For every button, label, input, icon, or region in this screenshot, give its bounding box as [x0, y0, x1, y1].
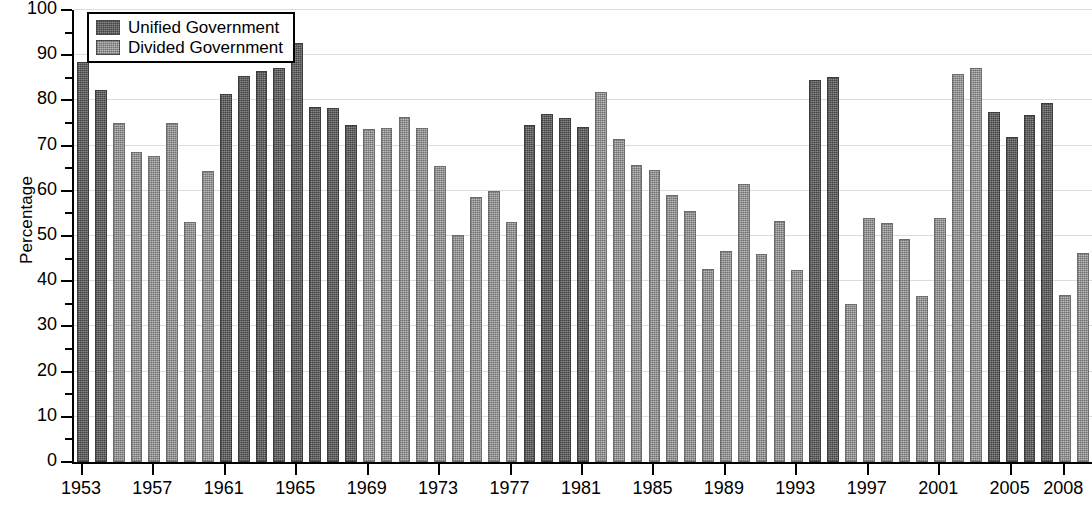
bar [845, 304, 857, 462]
x-tick-mark [152, 464, 154, 475]
y-tick-mark [61, 54, 72, 56]
bar [327, 108, 339, 462]
bar [631, 165, 643, 462]
bar [131, 152, 143, 462]
bar [488, 191, 500, 462]
y-tick-mark [61, 235, 72, 237]
y-tick-label: 70 [37, 134, 57, 155]
legend-label-unified: Unified Government [128, 18, 279, 37]
x-axis: 1953195719611965196919731977198119851989… [72, 464, 1090, 506]
bar [595, 92, 607, 462]
plot-area [72, 10, 1092, 464]
bar [863, 218, 875, 462]
x-tick-label: 1985 [632, 478, 672, 499]
x-tick-label: 1977 [490, 478, 530, 499]
x-tick-mark [438, 464, 440, 475]
bar [684, 211, 696, 462]
bar [1006, 137, 1018, 462]
bar [166, 123, 178, 462]
legend-swatch-divided-icon [96, 40, 120, 55]
x-tick-label: 1973 [418, 478, 458, 499]
bar [345, 125, 357, 462]
y-tick-label: 90 [37, 43, 57, 64]
legend-item-unified: Unified Government [96, 17, 283, 37]
bar [1059, 295, 1071, 462]
bar [666, 195, 678, 462]
x-tick-mark [581, 464, 583, 475]
bar [1024, 115, 1036, 462]
y-tick-mark [61, 190, 72, 192]
bar [470, 197, 482, 462]
y-minor-tick-mark [65, 122, 72, 124]
y-tick-mark [61, 9, 72, 11]
bar [1041, 103, 1053, 462]
x-tick-label: 2005 [990, 478, 1030, 499]
x-tick-mark [652, 464, 654, 475]
y-tick-label: 80 [37, 88, 57, 109]
legend-item-divided: Divided Government [96, 37, 283, 57]
y-tick-mark [61, 280, 72, 282]
bar [399, 117, 411, 462]
x-tick-mark [795, 464, 797, 475]
y-tick-mark [61, 371, 72, 373]
x-tick-mark [1063, 464, 1065, 475]
y-minor-tick-mark [65, 77, 72, 79]
y-minor-tick-mark [65, 438, 72, 440]
x-tick-label: 1961 [204, 478, 244, 499]
y-tick-mark [61, 99, 72, 101]
bar [291, 43, 303, 462]
x-tick-label: 2001 [918, 478, 958, 499]
x-tick-mark [867, 464, 869, 475]
bar [452, 235, 464, 462]
bar [416, 128, 428, 462]
legend-label-divided: Divided Government [128, 38, 283, 57]
y-tick-label: 0 [47, 450, 57, 471]
y-tick-mark [61, 325, 72, 327]
bar [881, 223, 893, 462]
bar [273, 68, 285, 462]
bar [791, 270, 803, 462]
bar [774, 221, 786, 462]
bar [916, 296, 928, 462]
legend-swatch-unified-icon [96, 20, 120, 35]
y-minor-tick-mark [65, 212, 72, 214]
bar-series-container [74, 10, 1092, 462]
y-tick-mark [61, 145, 72, 147]
bar [541, 114, 553, 462]
y-tick-label: 100 [27, 0, 57, 19]
bar [809, 80, 821, 462]
x-tick-mark [295, 464, 297, 475]
y-tick-mark [61, 461, 72, 463]
bar [95, 90, 107, 462]
x-tick-mark [224, 464, 226, 475]
bar [827, 77, 839, 462]
x-tick-label: 1997 [847, 478, 887, 499]
bar [77, 62, 89, 462]
x-tick-mark [724, 464, 726, 475]
y-tick-label: 30 [37, 314, 57, 335]
y-axis: 0102030405060708090100 [0, 10, 72, 462]
y-minor-tick-mark [65, 258, 72, 260]
bar [970, 68, 982, 462]
y-minor-tick-mark [65, 303, 72, 305]
bar [899, 239, 911, 462]
bar [577, 127, 589, 462]
y-minor-tick-mark [65, 393, 72, 395]
x-tick-mark [938, 464, 940, 475]
x-tick-label: 1993 [775, 478, 815, 499]
bar [202, 171, 214, 462]
bar [952, 74, 964, 462]
bar [559, 118, 571, 462]
bar [524, 125, 536, 462]
bar [381, 128, 393, 462]
bar [720, 251, 732, 462]
bar [756, 254, 768, 462]
bar [363, 129, 375, 462]
y-tick-label: 60 [37, 179, 57, 200]
bar [113, 123, 125, 462]
x-tick-label: 1953 [61, 478, 101, 499]
bar [738, 184, 750, 462]
x-tick-mark [510, 464, 512, 475]
chart-legend: Unified Government Divided Government [87, 12, 295, 63]
bar [702, 269, 714, 462]
